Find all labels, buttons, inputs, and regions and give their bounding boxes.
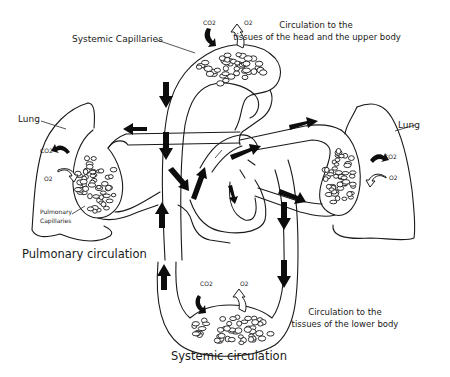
co2-in-arrow-top <box>205 28 216 47</box>
capillary-cell <box>244 327 251 333</box>
label-upper-circ-line2: tissues of the head and the upper body <box>233 32 401 42</box>
capillary-cell <box>237 321 242 326</box>
capillary-cell <box>335 171 342 175</box>
capillary-cell <box>244 56 252 62</box>
capillary-cell <box>87 164 94 169</box>
capillary-cell <box>202 60 209 65</box>
label-co2-bottom: CO2 <box>200 280 213 287</box>
label-lung-left: Lung <box>18 114 40 124</box>
capillary-cell <box>224 53 231 58</box>
capillary-cell <box>347 192 352 197</box>
capillary-cell <box>99 195 103 200</box>
capillary-cell <box>80 179 87 184</box>
label-o2-top: O2 <box>244 19 253 26</box>
capillary-cell <box>225 57 230 62</box>
capillary-cell <box>349 182 356 186</box>
capillary-cell <box>243 68 251 73</box>
label-lower-circ-line2: tissues of the lower body <box>292 319 399 329</box>
capillary-cell <box>198 327 206 331</box>
capillary-cell <box>337 182 343 187</box>
left-pulmonary-capillary-bed <box>73 130 240 220</box>
capillary-cell <box>332 167 337 170</box>
label-o2-right: O2 <box>389 174 398 181</box>
capillary-cell <box>325 167 330 172</box>
capillary-cell <box>258 322 263 326</box>
capillary-cell <box>228 74 235 79</box>
capillary-cell <box>330 200 337 204</box>
capillary-cell <box>87 207 93 211</box>
capillary-cell <box>98 169 103 173</box>
capillary-cell <box>242 75 248 79</box>
capillary-cell <box>248 337 253 343</box>
capillary-cell <box>214 68 220 72</box>
capillary-cell <box>101 202 106 207</box>
capillary-cell <box>106 185 112 190</box>
capillary-cell <box>236 53 241 57</box>
capillary-cell <box>342 180 349 185</box>
capillary-cell <box>239 341 244 345</box>
capillary-cell <box>228 337 235 341</box>
capillary-cell <box>220 317 226 322</box>
capillary-cell <box>91 157 96 161</box>
capillary-cell <box>109 175 114 179</box>
capillary-cell <box>83 186 89 191</box>
arrow-down-1 <box>159 82 173 108</box>
capillary-cell <box>329 188 334 191</box>
capillary-cell <box>100 191 106 194</box>
capillary-cell <box>90 170 96 174</box>
capillary-cell <box>97 185 102 188</box>
label-co2-right: CO2 <box>384 153 397 160</box>
capillary-cell <box>192 322 199 326</box>
top-systemic-capillary-bed <box>162 45 280 260</box>
capillary-cell <box>206 71 213 76</box>
capillary-cell <box>111 193 116 196</box>
label-co2-left: CO2 <box>40 147 53 154</box>
label-lower-circ-line1: Circulation to the <box>308 307 381 317</box>
capillary-cell <box>336 149 341 154</box>
label-o2-left: O2 <box>44 175 53 182</box>
capillary-cell <box>90 174 96 178</box>
capillary-cell <box>344 163 351 167</box>
capillary-cell <box>238 335 243 339</box>
capillary-cell <box>85 156 90 161</box>
label-upper-circ-line1: Circulation to the <box>279 20 352 30</box>
capillary-cell <box>75 188 82 192</box>
capillary-cell <box>88 194 93 199</box>
label-pulmonary-capillaries-2: Capillaries <box>40 217 71 225</box>
capillary-cell <box>235 61 240 65</box>
capillary-cell <box>256 331 263 337</box>
label-pulmonary-capillaries-1: Pulmonary <box>40 208 72 216</box>
label-lung-right: Lung <box>398 120 420 130</box>
capillary-cell <box>350 171 356 175</box>
capillary-cell <box>234 67 240 71</box>
capillary-cell <box>335 158 340 162</box>
capillary-cell <box>217 328 223 333</box>
lower-systemic-loop <box>157 160 298 356</box>
capillary-cell <box>110 167 117 172</box>
capillary-cell <box>204 66 212 72</box>
capillary-cell <box>230 317 237 321</box>
capillary-cell <box>349 156 355 161</box>
label-systemic-capillaries: Systemic Capillaries <box>72 34 163 44</box>
capillary-cell <box>88 183 95 187</box>
label-o2-bottom: O2 <box>240 280 249 287</box>
capillary-cell <box>235 328 242 334</box>
capillary-cell <box>341 176 347 180</box>
capillary-cell <box>83 169 88 174</box>
label-pulmonary-circulation: Pulmonary circulation <box>22 247 147 261</box>
capillary-cell <box>196 65 202 69</box>
capillary-cell <box>335 196 340 201</box>
capillary-cell <box>192 332 199 336</box>
capillary-cell <box>349 174 355 178</box>
capillary-cell <box>327 173 334 176</box>
capillary-cell <box>245 316 252 320</box>
capillary-cell <box>323 177 328 182</box>
capillary-cell <box>217 81 224 86</box>
capillary-cell <box>203 322 210 326</box>
capillary-cell <box>258 336 265 341</box>
capillary-cell <box>267 332 274 337</box>
capillary-cell <box>339 154 344 158</box>
capillary-cell <box>218 333 225 338</box>
capillary-cell <box>224 326 231 331</box>
capillary-cell <box>255 61 263 66</box>
